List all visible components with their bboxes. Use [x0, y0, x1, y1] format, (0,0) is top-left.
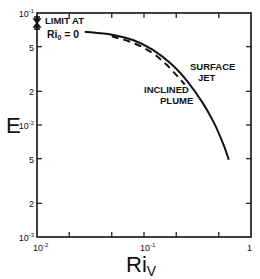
svg-text:5: 5 — [29, 43, 34, 53]
svg-text:5: 5 — [29, 155, 34, 165]
annotation-surface-jet: SURFACE JET — [190, 61, 235, 83]
axis-ticks — [37, 13, 251, 237]
inclined-plume-curve — [112, 36, 185, 84]
svg-text:INCLINED: INCLINED — [144, 84, 189, 95]
svg-text:10-1: 10-1 — [19, 8, 35, 19]
svg-text:10-3: 10-3 — [19, 232, 35, 243]
annotation-inclined-plume: INCLINED PLUME — [144, 84, 193, 106]
svg-text:JET: JET — [198, 72, 216, 83]
svg-text:1: 1 — [247, 243, 252, 253]
plot-frame — [37, 13, 251, 237]
x-axis-label: RiV — [126, 252, 157, 279]
svg-text:2: 2 — [29, 199, 34, 209]
limit-marker — [34, 17, 40, 29]
svg-text:2: 2 — [29, 87, 34, 97]
svg-text:Ri0 = 0: Ri0 = 0 — [47, 28, 79, 41]
svg-text:SURFACE: SURFACE — [190, 61, 235, 72]
y-axis-label: E — [6, 113, 21, 138]
svg-text:10-2: 10-2 — [33, 242, 49, 253]
svg-text:LIMIT AT: LIMIT AT — [45, 15, 84, 26]
annotation-limit: LIMIT AT Ri0 = 0 — [45, 15, 84, 41]
chart: 10-15210-25210-3 10-210-11 E RiV LIMIT A… — [0, 0, 260, 279]
svg-text:PLUME: PLUME — [160, 95, 193, 106]
svg-text:10-2: 10-2 — [19, 120, 35, 131]
surface-jet-curve — [85, 32, 229, 160]
y-tick-labels: 10-15210-25210-3 — [19, 8, 35, 243]
